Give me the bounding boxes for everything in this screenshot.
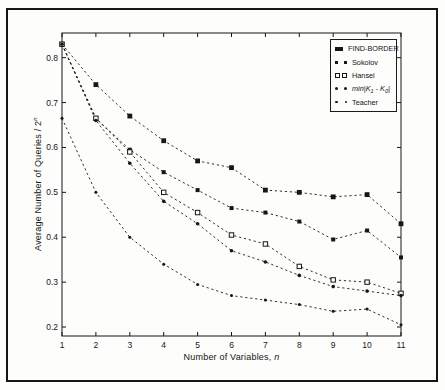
y-tick-label: 0.6: [46, 142, 58, 152]
data-point-marker: [94, 191, 97, 194]
data-point-marker: [230, 294, 233, 297]
y-tick-label: 0.8: [46, 53, 58, 63]
data-point-marker: [230, 206, 234, 210]
data-point-marker: [60, 42, 64, 46]
x-tick-label: 5: [195, 340, 200, 350]
data-point-marker: [297, 264, 301, 268]
y-tick-label: 0.2: [46, 322, 58, 332]
x-tick-label: 4: [161, 340, 166, 350]
x-tick-label: 8: [297, 340, 302, 350]
x-tick-label: 11: [397, 340, 406, 350]
data-point-marker: [331, 285, 335, 289]
legend-entry-min-k1-k0: min|K1 - K0|: [335, 82, 396, 95]
data-point-marker: [128, 150, 132, 154]
data-point-marker: [263, 211, 267, 215]
x-tick-label: 2: [94, 340, 99, 350]
dot-marker-icon: [335, 101, 347, 104]
data-point-marker: [196, 222, 200, 226]
series-line-teacher: [62, 118, 401, 324]
data-point-marker: [196, 188, 200, 192]
data-point-marker: [162, 200, 166, 204]
data-point-marker: [331, 278, 335, 282]
square-filled-marker-icon: [335, 47, 343, 51]
y-tick-label: 0.5: [46, 187, 58, 197]
data-point-marker: [263, 242, 267, 246]
legend-label: Hansel: [352, 71, 375, 80]
legend-label: Teacher: [352, 98, 378, 107]
legend-entry-hansel: Hansel: [335, 69, 396, 82]
data-point-marker: [399, 255, 403, 259]
data-point-marker: [331, 194, 336, 199]
x-axis-label: Number of Variables, n: [62, 352, 401, 362]
x-tick-label: 6: [229, 340, 234, 350]
legend-box: FIND-BORDER Sokolov Hansel min|K1 - K0| …: [330, 39, 397, 112]
square-filled-marker-icon: [335, 61, 347, 64]
x-tick-label: 10: [362, 340, 372, 350]
data-point-marker: [366, 308, 369, 311]
data-point-marker: [365, 289, 369, 293]
data-point-marker: [365, 192, 370, 197]
data-point-marker: [128, 236, 131, 239]
data-point-marker: [399, 221, 404, 226]
data-point-marker: [264, 299, 267, 302]
data-point-marker: [399, 294, 403, 298]
data-point-marker: [229, 233, 233, 237]
data-point-marker: [332, 310, 335, 313]
data-point-marker: [162, 170, 166, 174]
data-point-marker: [298, 274, 302, 278]
legend-entry-teacher: Teacher: [335, 96, 396, 109]
legend-entry-find-border: FIND-BORDER: [335, 42, 396, 55]
legend-label: Sokolov: [352, 58, 378, 67]
legend-label: FIND-BORDER: [348, 44, 399, 53]
data-point-marker: [195, 159, 200, 164]
x-tick-label: 3: [127, 340, 132, 350]
y-tick-label: 0.7: [46, 98, 58, 108]
data-point-marker: [196, 283, 199, 286]
y-tick-label: 0.4: [46, 232, 58, 242]
data-point-marker: [297, 220, 301, 224]
x-tick-label: 1: [60, 340, 65, 350]
data-point-marker: [94, 119, 98, 123]
x-tick-label: 7: [263, 340, 268, 350]
data-point-marker: [365, 280, 369, 284]
data-point-marker: [195, 210, 199, 214]
data-point-marker: [298, 303, 301, 306]
data-point-marker: [263, 188, 268, 193]
legend-entry-sokolov: Sokolov: [335, 56, 396, 69]
data-point-marker: [94, 82, 99, 87]
data-point-marker: [297, 190, 302, 195]
data-point-marker: [127, 114, 132, 119]
data-point-marker: [264, 260, 268, 264]
data-point-marker: [400, 323, 403, 326]
y-tick-label: 0.3: [46, 277, 58, 287]
y-axis-label: Average Number of Queries / 2n: [32, 117, 43, 251]
dot-marker-icon: [335, 87, 347, 90]
data-point-marker: [61, 117, 64, 120]
x-tick-label: 9: [331, 340, 336, 350]
data-point-marker: [162, 190, 166, 194]
data-point-marker: [162, 263, 165, 266]
data-point-marker: [331, 237, 335, 241]
square-open-marker-icon: [335, 73, 347, 78]
figure: 12345678910110.20.30.40.50.60.70.8 Numbe…: [0, 0, 445, 390]
legend-label: min|K1 - K0|: [352, 84, 390, 94]
data-point-marker: [230, 249, 234, 253]
data-point-marker: [365, 229, 369, 233]
data-point-marker: [229, 165, 234, 170]
data-point-marker: [161, 138, 166, 143]
data-point-marker: [128, 161, 132, 165]
